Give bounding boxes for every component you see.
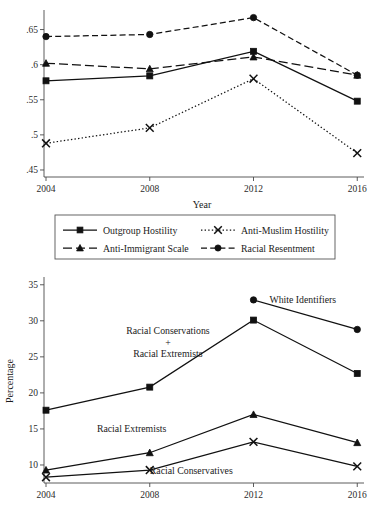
y-tick-label: .55 [26, 95, 38, 105]
chart-annotation: Racial Extremists [133, 348, 203, 359]
marker-square [354, 370, 360, 376]
marker-circle [43, 33, 49, 39]
series-racial-extremists [43, 411, 361, 473]
series-line [46, 415, 357, 471]
legend-panel: Outgroup HostilityAnti-Muslim HostilityA… [0, 210, 370, 265]
x-tick-label: 2004 [37, 184, 56, 194]
marker-square [43, 407, 49, 413]
marker-square [251, 317, 257, 323]
legend-item-label: Anti-Immigrant Scale [103, 243, 189, 254]
marker-square [147, 73, 153, 79]
marker-square [77, 227, 83, 233]
series-line [46, 51, 357, 101]
y-tick-label: .6 [31, 60, 38, 70]
y-tick-label: 30 [29, 316, 39, 326]
chart-annotation: + [165, 337, 171, 348]
series-anti-muslim-hostility [42, 75, 361, 157]
marker-circle [250, 297, 256, 303]
series-outgroup-hostility [43, 48, 360, 104]
top-chart-axes: .45.5.55.6.652004200820122016 [26, 10, 367, 194]
y-tick-label: .5 [31, 130, 38, 140]
x-tick-label: 2012 [244, 490, 263, 500]
marker-cross [250, 438, 258, 446]
legend-item-label: Outgroup Hostility [103, 225, 177, 236]
x-tick-label: 2004 [37, 490, 56, 500]
bottom-line-chart-panel: 1015202530352004200820122016PercentageWh… [0, 265, 370, 517]
legend-svg: Outgroup HostilityAnti-Muslim HostilityA… [0, 210, 370, 265]
x-tick-label: 2012 [244, 184, 263, 194]
marker-square [147, 384, 153, 390]
y-tick-label: 20 [29, 388, 39, 398]
marker-circle [354, 72, 360, 78]
series-anti-immigrant-scale [43, 53, 361, 78]
marker-circle [215, 245, 221, 251]
marker-cross [250, 75, 258, 83]
x-tick-label: 2016 [348, 490, 367, 500]
top-line-chart-panel: .45.5.55.6.652004200820122016Year [0, 0, 370, 210]
x-tick-label: 2016 [348, 184, 367, 194]
y-tick-label: 15 [29, 424, 39, 434]
x-tick-label: 2008 [140, 184, 159, 194]
marker-cross [353, 149, 361, 157]
figure-container: .45.5.55.6.652004200820122016Year Outgro… [0, 0, 370, 517]
y-axis-title: Percentage [4, 359, 15, 403]
x-tick-label: 2008 [140, 490, 159, 500]
series-line [46, 57, 357, 75]
y-tick-label: 25 [29, 352, 39, 362]
y-tick-label: .45 [26, 165, 38, 175]
marker-circle [354, 326, 360, 332]
top-chart-svg: .45.5.55.6.652004200820122016Year [0, 0, 370, 210]
marker-square [354, 98, 360, 104]
y-tick-label: 35 [29, 280, 39, 290]
marker-triangle [250, 411, 257, 418]
marker-cross [353, 463, 361, 471]
chart-annotation: Racial Conservations [126, 325, 210, 336]
x-axis-title: Year [193, 199, 212, 210]
y-tick-label: .65 [26, 25, 38, 35]
series-racial-resentment [43, 14, 361, 78]
legend-item-label: Anti-Muslim Hostility [241, 225, 329, 236]
marker-circle [250, 14, 256, 20]
chart-annotation: Racial Extremists [97, 423, 167, 434]
chart-annotation: Racial Conservatives [150, 465, 233, 476]
marker-cross [42, 139, 50, 147]
marker-square [43, 78, 49, 84]
bottom-chart-svg: 1015202530352004200820122016PercentageWh… [0, 265, 370, 517]
chart-annotation: White Identifiers [269, 294, 336, 305]
series-line [46, 79, 357, 153]
legend-item-label: Racial Resentment [241, 243, 315, 254]
y-tick-label: 10 [29, 460, 39, 470]
marker-circle [147, 31, 153, 37]
